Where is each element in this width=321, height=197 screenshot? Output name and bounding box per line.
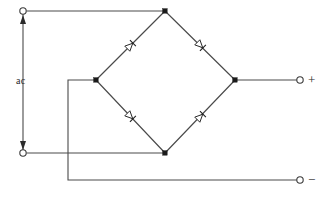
dc-positive-label: + <box>308 73 315 86</box>
node-top <box>163 9 168 14</box>
node-right <box>233 78 238 83</box>
bridge-rectifier-diagram: ac + − <box>0 0 321 197</box>
ac-arrow-up-icon <box>20 15 26 24</box>
bridge-diamond-group <box>96 11 235 153</box>
junction-nodes-group <box>94 9 238 156</box>
ac-arrow-down-icon <box>20 141 26 150</box>
circuit-schematic-canvas <box>0 0 321 197</box>
ac-bottom-lead-group <box>20 150 165 156</box>
dc-positive-path-group <box>235 77 303 83</box>
ac-top-lead-group <box>20 8 165 14</box>
dc-minus-terminal[interactable] <box>297 177 303 183</box>
node-bottom <box>163 151 168 156</box>
ac-top-terminal[interactable] <box>20 8 26 14</box>
dc-negative-label: − <box>308 173 315 186</box>
dc-plus-terminal[interactable] <box>297 77 303 83</box>
node-left <box>94 78 99 83</box>
ac-bottom-terminal[interactable] <box>20 150 26 156</box>
ac-source-label: ac <box>16 76 25 86</box>
dc-negative-wire <box>68 80 297 180</box>
